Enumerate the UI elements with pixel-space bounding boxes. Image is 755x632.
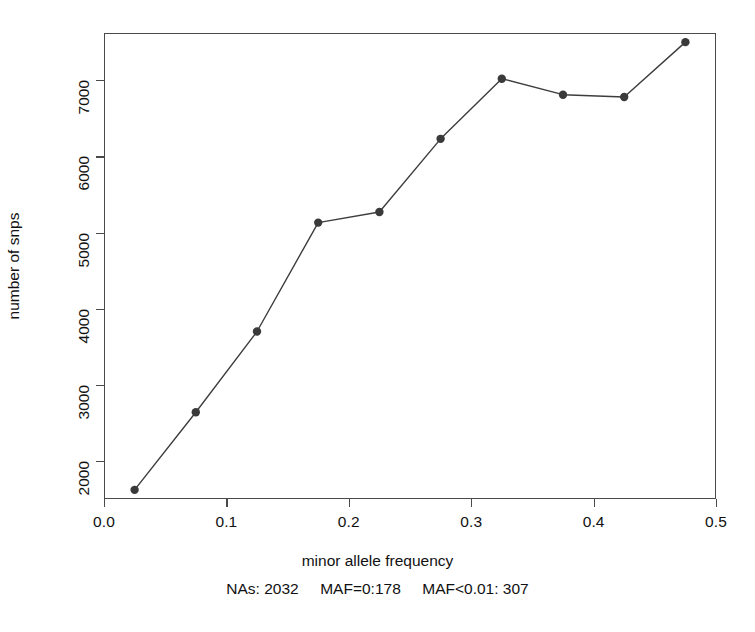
x-axis-label: minor allele frequency xyxy=(0,552,755,570)
y-tick-mark xyxy=(96,233,104,234)
y-tick-mark xyxy=(96,385,104,386)
data-point xyxy=(375,208,383,216)
data-point xyxy=(436,135,444,143)
data-point xyxy=(681,38,689,46)
x-tick-label: 0.3 xyxy=(460,513,482,531)
x-tick-label: 0.4 xyxy=(583,513,605,531)
x-tick-label: 0.1 xyxy=(215,513,237,531)
data-point-group xyxy=(130,38,689,494)
plot-figure: 0.00.10.20.30.40.5 200030004000500060007… xyxy=(0,0,755,632)
y-tick-label: 4000 xyxy=(75,309,93,343)
data-point xyxy=(253,327,261,335)
data-point xyxy=(559,90,567,98)
y-tick-label: 2000 xyxy=(75,461,93,495)
y-tick-mark xyxy=(96,461,104,462)
y-tick-mark xyxy=(96,80,104,81)
y-tick-mark xyxy=(96,156,104,157)
data-point xyxy=(314,218,322,226)
x-tick-label: 0.0 xyxy=(93,513,115,531)
data-point xyxy=(192,408,200,416)
x-tick-label: 0.5 xyxy=(705,513,727,531)
chart-subtitle: NAs: 2032 MAF=0:178 MAF<0.01: 307 xyxy=(0,580,755,598)
x-tick-mark xyxy=(349,499,350,507)
y-tick-label: 6000 xyxy=(75,156,93,190)
data-point xyxy=(498,74,506,82)
plot-canvas xyxy=(104,33,716,499)
x-tick-mark xyxy=(226,499,227,507)
x-tick-mark xyxy=(594,499,595,507)
y-tick-label: 7000 xyxy=(75,80,93,114)
data-point xyxy=(620,93,628,101)
y-tick-label: 3000 xyxy=(75,385,93,419)
y-axis-label: number of snps xyxy=(5,213,23,320)
x-tick-label: 0.2 xyxy=(338,513,360,531)
x-tick-mark xyxy=(471,499,472,507)
y-tick-label: 5000 xyxy=(75,233,93,267)
x-tick-mark xyxy=(716,499,717,507)
data-line xyxy=(135,42,686,490)
x-tick-mark xyxy=(104,499,105,507)
y-tick-mark xyxy=(96,309,104,310)
data-point xyxy=(130,486,138,494)
